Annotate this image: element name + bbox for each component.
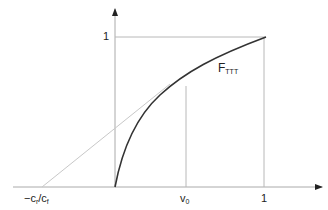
diagram-canvas [0, 0, 328, 210]
f-ttt-curve [115, 37, 266, 187]
y-axis-label-one: 1 [103, 31, 109, 42]
x-axis-label-one: 1 [261, 193, 267, 204]
v0-sub: 0 [186, 198, 190, 205]
curve-label-f-ttt: FTTT [218, 62, 238, 75]
curve-label-sub: TTT [225, 68, 238, 75]
neg-ratio-sub-f: f [47, 198, 49, 205]
neg-ratio-main: −c [24, 192, 36, 204]
neg-ratio-slash: /c [38, 192, 47, 204]
x-axis-label-v0: v0 [180, 193, 189, 205]
x-axis-label-neg-ratio: −cr/cf [24, 193, 49, 205]
tangent-line [42, 84, 170, 187]
